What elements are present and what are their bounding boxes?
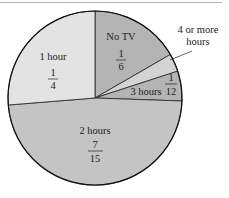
label-1-hour-num: 1	[50, 67, 55, 78]
label-3-hours-den: 12	[166, 86, 177, 97]
label-no-tv: No TV	[106, 31, 136, 42]
label-3-hours-num: 1	[168, 72, 173, 83]
leader-line	[170, 51, 192, 60]
label-4-or-more-line2: hours	[186, 36, 209, 47]
label-no-tv-den: 6	[118, 61, 123, 72]
label-no-tv-num: 1	[118, 48, 123, 59]
label-1-hour-den: 4	[50, 80, 56, 91]
label-4-or-more-line1: 4 or more	[178, 24, 219, 35]
label-2-hours-num: 7	[92, 139, 97, 150]
pie-chart: No TV 1 6 4 or more hours 3 hours 1 12 2…	[0, 0, 229, 198]
label-3-hours: 3 hours	[130, 86, 161, 97]
label-2-hours: 2 hours	[79, 125, 110, 136]
label-1-hour: 1 hour	[39, 51, 67, 62]
label-2-hours-den: 15	[90, 153, 101, 164]
